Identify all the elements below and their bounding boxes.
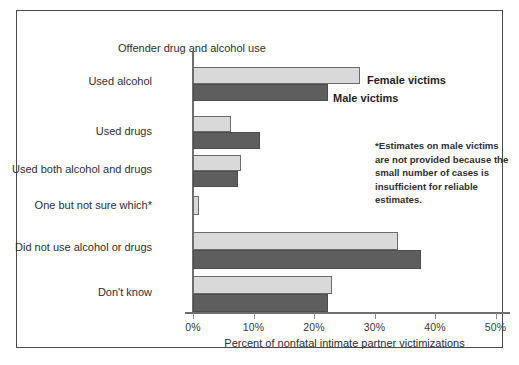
category-label-one-not-sure: One but not sure which*	[35, 199, 152, 211]
chart-frame: Offender drug and alcohol use 0% 10% 20%…	[16, 10, 503, 348]
bar-male-used-both	[193, 171, 238, 187]
x-tick-10	[254, 313, 255, 319]
x-tick-label-30: 30%	[364, 321, 386, 333]
bar-male-dont-know	[193, 294, 328, 312]
category-label-used-both: Used both alcohol and drugs	[12, 163, 152, 175]
x-tick-50	[496, 313, 497, 319]
x-tick-label-10: 10%	[243, 321, 265, 333]
category-label-used-drugs: Used drugs	[96, 125, 152, 137]
bar-female-used-drugs	[193, 116, 231, 132]
x-tick-0	[193, 313, 194, 319]
x-tick-label-40: 40%	[424, 321, 446, 333]
series-label-female: Female victims	[367, 74, 446, 86]
x-axis-line	[185, 312, 510, 314]
footnote-text: *Estimates on male victims are not provi…	[375, 139, 510, 207]
bar-female-did-not-use	[193, 232, 398, 250]
x-tick-label-0: 0%	[185, 321, 201, 333]
bar-male-used-alcohol	[193, 84, 328, 101]
x-tick-30	[375, 313, 376, 319]
bar-female-one-not-sure	[193, 196, 199, 215]
category-label-dont-know: Don't know	[98, 286, 152, 298]
chart-figure: Offender drug and alcohol use 0% 10% 20%…	[0, 0, 519, 365]
category-label-did-not-use: Did not use alcohol or drugs	[15, 241, 152, 253]
x-tick-20	[314, 313, 315, 319]
bar-female-used-alcohol	[193, 67, 360, 84]
bar-female-dont-know	[193, 276, 332, 294]
bar-female-used-both	[193, 155, 241, 171]
x-tick-label-20: 20%	[303, 321, 325, 333]
bar-male-did-not-use	[193, 250, 421, 269]
x-tick-label-50: 50%	[485, 321, 507, 333]
series-label-male: Male victims	[333, 92, 398, 104]
x-axis-title: Percent of nonfatal intimate partner vic…	[193, 337, 496, 349]
x-tick-40	[435, 313, 436, 319]
bar-male-used-drugs	[193, 132, 260, 149]
category-label-used-alcohol: Used alcohol	[88, 75, 152, 87]
